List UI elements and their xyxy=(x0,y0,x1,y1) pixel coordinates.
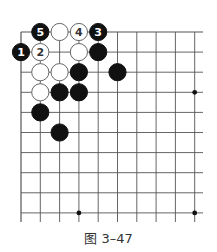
star-point-icon xyxy=(77,211,82,216)
go-board: 54312 xyxy=(0,0,217,225)
black-stone xyxy=(51,124,68,141)
black-stone xyxy=(109,64,126,81)
black-stone xyxy=(70,84,87,101)
move-number: 2 xyxy=(36,46,44,59)
white-stone xyxy=(32,84,49,101)
move-number: 3 xyxy=(94,26,102,39)
black-stone: 1 xyxy=(12,44,29,61)
black-stone xyxy=(90,44,107,61)
move-number: 4 xyxy=(75,26,83,39)
black-stone xyxy=(51,84,68,101)
black-stone: 5 xyxy=(32,23,49,40)
white-stone: 2 xyxy=(32,44,49,61)
stones: 54312 xyxy=(12,23,126,141)
star-point-icon xyxy=(192,211,197,216)
black-stone: 3 xyxy=(90,23,107,40)
star-point-icon xyxy=(192,90,197,95)
figure-caption: 图 3–47 xyxy=(0,228,217,247)
move-number: 5 xyxy=(36,26,44,39)
board-grid xyxy=(21,32,203,222)
white-stone xyxy=(70,44,87,61)
black-stone xyxy=(32,104,49,121)
white-stone xyxy=(51,23,68,40)
white-stone xyxy=(32,64,49,81)
white-stone xyxy=(51,64,68,81)
black-stone xyxy=(70,64,87,81)
white-stone: 4 xyxy=(70,23,87,40)
move-number: 1 xyxy=(17,46,25,59)
